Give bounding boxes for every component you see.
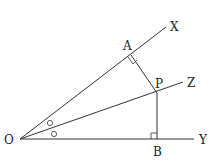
label-p: P: [155, 77, 163, 91]
label-o: O: [4, 133, 14, 147]
label-b: B: [153, 145, 162, 159]
label-y: Y: [198, 133, 208, 147]
label-x: X: [170, 20, 179, 34]
angle-mark-upper: [47, 120, 52, 125]
segment-pa: [131, 55, 157, 93]
right-angle-mark-b: [151, 133, 157, 139]
label-a: A: [122, 39, 132, 53]
angle-mark-lower: [51, 131, 56, 136]
label-z: Z: [187, 76, 195, 90]
angle-bisector-diagram: O A P B X Z Y: [0, 0, 213, 161]
ray-ox: [20, 27, 166, 139]
